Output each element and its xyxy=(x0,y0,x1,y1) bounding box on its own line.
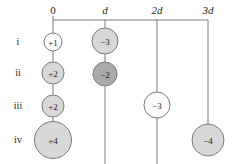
charge-i-d: −3 xyxy=(92,28,118,54)
axis-tick-label-2: 2d xyxy=(152,5,163,16)
axis-tick-label-1: d xyxy=(102,5,108,16)
charge-iii-0: +2 xyxy=(42,95,64,117)
charge-i-0: +1 xyxy=(44,33,62,51)
row-label-iii: iii xyxy=(14,101,22,111)
charge-iv-3d: −4 xyxy=(192,124,224,156)
charge-iv-0: +4 xyxy=(35,122,72,159)
row-label-i: i xyxy=(17,37,20,47)
charge-iii-0-label: +2 xyxy=(48,102,58,112)
charge-ii-d: −2 xyxy=(93,62,117,86)
charge-iv-0-label: +4 xyxy=(48,136,58,146)
axis-tick-label-0: 0 xyxy=(50,5,56,16)
axis-tick-label-3: 3d xyxy=(203,5,214,16)
charge-ii-0: +2 xyxy=(42,62,64,84)
diagram-canvas: +1−3+2−2+2−3+4−4 xyxy=(0,0,237,164)
charge-i-0-label: +1 xyxy=(48,38,58,48)
charge-diagram-figure: +1−3+2−2+2−3+4−4 0d2d3d iiiiiiiv xyxy=(0,0,237,164)
charge-iii-2d: −3 xyxy=(144,92,170,118)
charge-iii-2d-label: −3 xyxy=(152,101,162,111)
row-label-ii: ii xyxy=(15,68,21,78)
charge-i-d-label: −3 xyxy=(100,37,110,47)
charge-iv-3d-label: −4 xyxy=(203,136,213,146)
charge-ii-0-label: +2 xyxy=(48,69,58,79)
charge-ii-d-label: −2 xyxy=(100,70,110,80)
row-label-iv: iv xyxy=(14,135,22,145)
